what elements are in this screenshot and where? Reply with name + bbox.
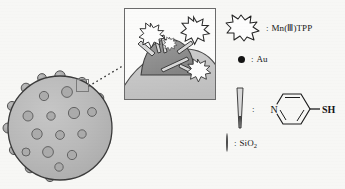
legend-colon: :: [252, 104, 255, 114]
figure-canvas: : Mn(Ⅲ)TPP : Au :: [0, 0, 345, 189]
substituent-label: SH: [322, 104, 336, 115]
filled-circle-icon: [238, 56, 245, 63]
legend-item-au: : Au: [238, 54, 268, 64]
shaded-sphere-icon: [226, 134, 228, 152]
legend-label-sio2-main: SiO: [240, 138, 254, 148]
legend-label-au: Au: [257, 54, 268, 64]
legend-label-sio2: SiO2: [240, 138, 258, 149]
legend-label-mn-tpp: Mn(Ⅲ)TPP: [272, 23, 313, 33]
starburst-icon: [226, 14, 260, 42]
legend-label-sio2-sub: 2: [254, 142, 257, 149]
legend-colon: :: [251, 54, 254, 64]
legend-item-sio2: : SiO2: [226, 134, 257, 152]
pyridine-ring-structure: N SH: [258, 89, 332, 129]
hetero-atom-label: N: [270, 104, 277, 115]
legend-item-mn-tpp: : Mn(Ⅲ)TPP: [226, 14, 312, 42]
legend: : Mn(Ⅲ)TPP : Au :: [224, 0, 345, 189]
needle-icon: [234, 88, 246, 130]
legend-colon: :: [266, 23, 269, 33]
legend-item-pyridine-thiol: : N SH: [234, 88, 332, 130]
surface-detail-inset: [124, 8, 216, 100]
legend-colon: :: [234, 138, 237, 148]
